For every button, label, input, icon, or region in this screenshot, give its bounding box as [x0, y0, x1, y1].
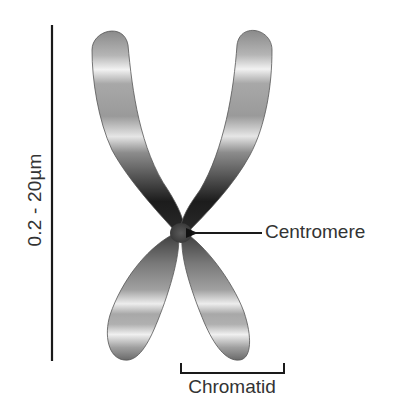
- chromosome-diagram: 0.2 - 20µm Centromere Chromatid: [0, 0, 420, 419]
- chromosome-illustration: [0, 0, 420, 419]
- lower-left-chromatid-arm: [107, 232, 178, 360]
- centromere-label: Centromere: [265, 221, 365, 243]
- chromatid-bracket: [181, 363, 284, 373]
- upper-right-chromatid-arm: [180, 30, 272, 234]
- chromatid-label: Chromatid: [188, 376, 276, 398]
- lower-right-chromatid-arm: [182, 232, 250, 360]
- upper-left-chromatid-arm: [92, 31, 184, 234]
- scale-bar-label: 0.2 - 20µm: [24, 153, 46, 246]
